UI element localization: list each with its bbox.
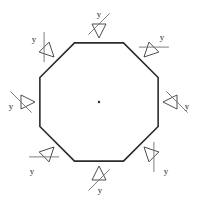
support-triangle-icon	[92, 24, 106, 38]
support-top: y	[88, 9, 109, 38]
support-triangle-icon	[144, 42, 159, 57]
support-top-right: y	[139, 32, 169, 57]
support-right: y	[163, 91, 190, 112]
octagon-support-diagram: yyyyyyyy	[0, 0, 198, 201]
support-triangle-icon	[144, 147, 159, 162]
support-triangle-icon	[163, 95, 177, 109]
support-axis-label: y	[32, 34, 37, 44]
support-triangle-icon	[39, 147, 54, 162]
support-axis-label: y	[97, 9, 102, 19]
support-axis-label: y	[30, 166, 35, 176]
support-triangle-icon	[92, 166, 106, 180]
figure-canvas: yyyyyyyy	[0, 0, 198, 201]
support-left: y	[9, 91, 35, 112]
center-point	[98, 101, 100, 103]
support-triangle-icon	[39, 42, 54, 57]
support-bottom-left: y	[29, 147, 59, 176]
support-axis-label: y	[9, 101, 14, 111]
support-triangle-icon	[21, 95, 35, 109]
support-axis-label: y	[98, 185, 103, 195]
support-bottom: y	[88, 166, 109, 195]
support-bottom-right: y	[144, 142, 169, 176]
support-axis-label: y	[160, 32, 165, 42]
support-axis-label: y	[185, 101, 190, 111]
support-axis-label: y	[164, 166, 169, 176]
support-top-left: y	[32, 32, 54, 62]
